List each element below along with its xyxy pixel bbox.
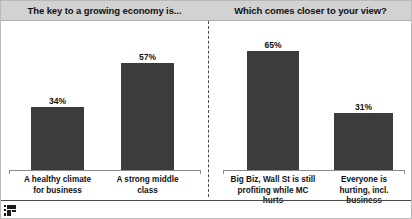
bar-value-left-0: 34% [31, 96, 84, 106]
category-label-left-1: A strong middle class [97, 175, 198, 196]
footer-rule [1, 200, 412, 201]
bar-value-left-1: 57% [121, 52, 174, 62]
chart-figure: The key to a growing economy is... Which… [0, 0, 412, 219]
axis-tick-end [200, 170, 201, 174]
axis-tick-start [9, 170, 10, 174]
chart-panel-right: 65% Big Biz, Wall St is still profiting … [208, 21, 412, 197]
bar-left-1 [121, 63, 174, 170]
category-label-right-1: Everyone is hurting, incl. business [326, 175, 402, 207]
bar-right-0 [247, 51, 299, 170]
bar-left-0 [31, 107, 84, 170]
chart-panel-left: 34% A healthy climate for business 57% A… [1, 21, 208, 197]
category-label-right-0: Big Biz, Wall St is still profiting whil… [218, 175, 328, 207]
x-axis-left [9, 170, 201, 171]
axis-tick-end [404, 170, 405, 174]
panel-title-right: Which comes closer to your view? [208, 1, 412, 21]
category-label-left-0: A healthy climate for business [6, 175, 109, 196]
x-axis-right [223, 170, 405, 171]
bar-right-1 [334, 113, 393, 170]
axis-tick-start [223, 170, 224, 174]
publisher-logo-icon [4, 205, 20, 217]
panel-title-left: The key to a growing economy is... [1, 1, 208, 21]
bar-value-right-1: 31% [334, 102, 393, 112]
bar-value-right-0: 65% [247, 40, 299, 50]
